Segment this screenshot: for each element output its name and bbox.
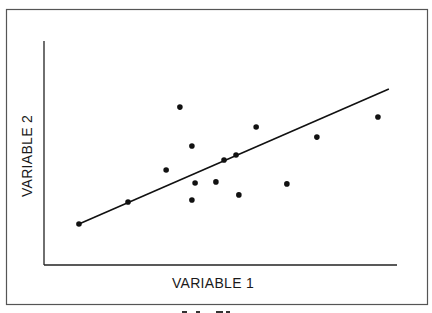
data-point-6 xyxy=(189,197,195,203)
data-points xyxy=(76,104,381,227)
scatter-plot: VARIABLE 1 VARIABLE 2 xyxy=(0,0,432,313)
data-point-11 xyxy=(236,192,242,198)
data-point-4 xyxy=(177,104,183,110)
chart-frame xyxy=(7,10,428,305)
data-point-7 xyxy=(192,180,198,186)
data-point-12 xyxy=(253,124,259,130)
data-point-9 xyxy=(221,157,227,163)
data-point-10 xyxy=(233,152,239,158)
data-point-8 xyxy=(213,179,219,185)
data-point-3 xyxy=(163,167,169,173)
data-point-2 xyxy=(125,199,131,205)
data-point-15 xyxy=(375,114,381,120)
data-point-5 xyxy=(189,143,195,149)
data-point-14 xyxy=(314,134,320,140)
x-axis-label: VARIABLE 1 xyxy=(172,275,254,291)
data-point-1 xyxy=(76,221,82,227)
y-axis-label: VARIABLE 2 xyxy=(19,115,35,197)
data-point-13 xyxy=(284,181,290,187)
